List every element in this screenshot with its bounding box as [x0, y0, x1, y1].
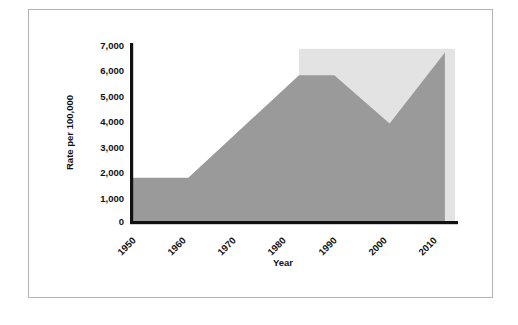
y-tick-label: 2,000 — [72, 167, 124, 178]
y-axis-line — [130, 43, 133, 223]
y-tick-label: 4,000 — [72, 116, 124, 127]
y-tick-label: 3,000 — [72, 142, 124, 153]
chart-figure: 7,000 6,000 5,000 4,000 3,000 2,000 1,00… — [0, 0, 518, 325]
y-tick-label: 6,000 — [72, 65, 124, 76]
y-tick-label: 5,000 — [72, 91, 124, 102]
y-axis-title: Rate per 100,000 — [64, 63, 75, 203]
y-tick-label: 0 — [72, 216, 124, 227]
y-tick-label: 7,000 — [72, 40, 124, 51]
x-axis-line — [130, 221, 458, 224]
y-tick-label: 1,000 — [72, 193, 124, 204]
x-axis-title: Year — [253, 257, 313, 268]
